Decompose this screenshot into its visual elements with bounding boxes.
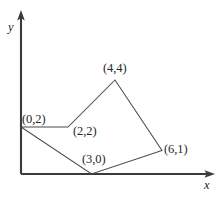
vertex-label-6-1: (6,1) xyxy=(164,143,187,156)
x-axis-label: x xyxy=(204,179,210,192)
vertex-label-0-2: (0,2) xyxy=(22,113,45,126)
figure-canvas xyxy=(0,0,224,198)
vertex-label-2-2: (2,2) xyxy=(73,125,96,138)
coordinate-plane-figure: (0,2) (2,2) (4,4) (6,1) (3,0) y x xyxy=(0,0,224,198)
vertex-label-3-0: (3,0) xyxy=(82,153,105,166)
vertex-label-4-4: (4,4) xyxy=(103,62,126,75)
y-axis-label: y xyxy=(8,21,14,34)
